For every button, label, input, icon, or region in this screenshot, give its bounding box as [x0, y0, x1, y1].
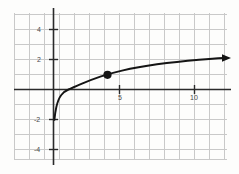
marked-point [103, 71, 111, 79]
y-tick-label-negative-4: -4 [34, 146, 40, 153]
graph-figure: 4 2 -2 -4 5 10 [0, 0, 239, 174]
y-tick-label-negative-2: -2 [34, 116, 40, 123]
x-tick-label-10: 10 [190, 94, 198, 101]
y-tick-label-2: 2 [37, 56, 41, 63]
x-tick-label-5: 5 [118, 94, 122, 101]
log-curve [54, 54, 231, 120]
y-tick-label-4: 4 [37, 26, 41, 33]
